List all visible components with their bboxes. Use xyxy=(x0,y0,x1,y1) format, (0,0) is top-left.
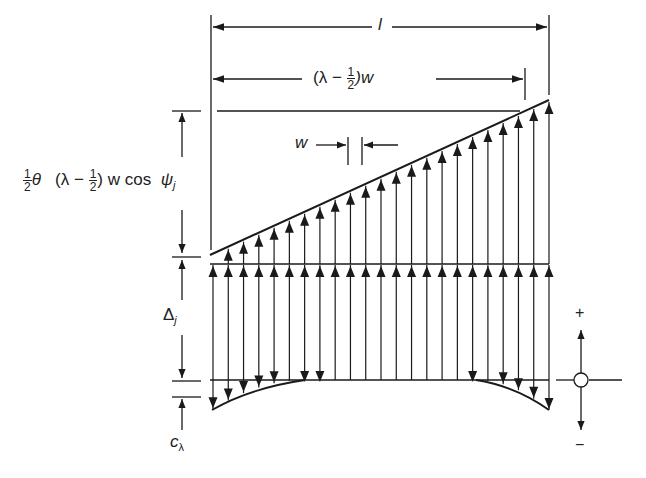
arrowhead-icon xyxy=(270,266,279,277)
arrowhead-icon xyxy=(529,110,538,121)
crown-subscript: λ xyxy=(179,441,185,453)
arrowhead-icon xyxy=(438,152,447,163)
arrowhead-icon xyxy=(315,208,324,219)
arrowhead-icon xyxy=(331,266,340,277)
arrowhead-icon xyxy=(514,266,523,277)
frac-den: 2 xyxy=(347,79,356,91)
crown-symbol: c xyxy=(170,432,179,451)
arrowhead-icon xyxy=(468,266,477,277)
arrowhead-icon xyxy=(529,387,538,398)
label-crown: cλ xyxy=(170,432,184,453)
arrowhead-icon xyxy=(331,201,340,212)
partial-suffix: )w xyxy=(355,68,373,87)
arrowhead-icon xyxy=(407,166,416,177)
arrowhead-icon xyxy=(300,215,309,226)
sign-origin-circle xyxy=(574,373,588,387)
arrowhead-icon xyxy=(270,229,279,240)
arrowhead-icon xyxy=(239,381,248,392)
arrowhead-icon xyxy=(514,117,523,128)
arrowhead-icon xyxy=(529,266,538,277)
arrowhead-icon xyxy=(407,266,416,277)
arrowhead-icon xyxy=(499,372,508,383)
arrowhead-icon xyxy=(254,236,263,247)
crown-curve-right xyxy=(476,380,549,410)
frac-den: 2 xyxy=(23,181,32,193)
partial-fraction: 12 xyxy=(347,66,356,91)
arrowhead-icon xyxy=(438,266,447,277)
label-partial-length: (λ − 12)w xyxy=(313,66,373,91)
arrowhead-icon xyxy=(483,131,492,142)
arrowhead-icon xyxy=(285,266,294,277)
rotation-suffix: ) w cos xyxy=(97,170,156,189)
arrowhead-icon xyxy=(224,250,233,261)
psi-subscript: j xyxy=(173,179,175,191)
arrowhead-icon xyxy=(377,180,386,191)
arrowhead-icon xyxy=(392,173,401,184)
arrowhead-icon xyxy=(545,266,554,277)
arrowhead-icon xyxy=(239,243,248,254)
arrowhead-icon xyxy=(514,378,523,389)
arrowhead-icon xyxy=(545,103,554,114)
arrowhead-icon xyxy=(224,266,233,277)
arrowhead-icon xyxy=(285,222,294,233)
label-rotation-term: 12θ (λ − 12) w cos ψj xyxy=(23,168,175,193)
arrowhead-icon xyxy=(499,266,508,277)
label-sign-minus: − xyxy=(575,436,584,454)
arrowhead-icon xyxy=(453,266,462,277)
label-sign-plus: + xyxy=(575,304,584,322)
theta-symbol: θ xyxy=(32,170,41,189)
arrowhead-icon xyxy=(315,266,324,277)
arrowhead-icon xyxy=(468,138,477,149)
arrowhead-icon xyxy=(346,266,355,277)
arrowhead-icon xyxy=(422,159,431,170)
arrowhead-icon xyxy=(224,388,233,399)
arrowhead-icon xyxy=(453,145,462,156)
label-total-length: l xyxy=(378,15,382,35)
pressure-arrows xyxy=(209,102,554,410)
arrowhead-icon xyxy=(254,375,263,386)
arrowhead-icon xyxy=(377,266,386,277)
psi-symbol: ψ xyxy=(161,170,173,189)
arrowhead-icon xyxy=(392,266,401,277)
partial-prefix: (λ − xyxy=(313,68,347,87)
arrowhead-icon xyxy=(346,194,355,205)
arrowhead-icon xyxy=(361,266,370,277)
arrowhead-icon xyxy=(254,266,263,277)
delta-subscript: j xyxy=(174,314,176,326)
theta-fraction: 12 xyxy=(23,168,32,193)
arrowhead-icon xyxy=(209,266,218,277)
arrowhead-icon xyxy=(483,266,492,277)
arrowhead-icon xyxy=(499,124,508,135)
label-element-width: w xyxy=(295,133,307,153)
arrowhead-icon xyxy=(300,266,309,277)
arrowhead-icon xyxy=(422,266,431,277)
arrowhead-icon xyxy=(361,187,370,198)
rotation-prefix: (λ − xyxy=(55,170,89,189)
delta-symbol: Δ xyxy=(163,305,174,324)
slope-line xyxy=(210,100,549,255)
arrowhead-icon xyxy=(239,266,248,277)
label-displacement: Δj xyxy=(163,305,177,326)
